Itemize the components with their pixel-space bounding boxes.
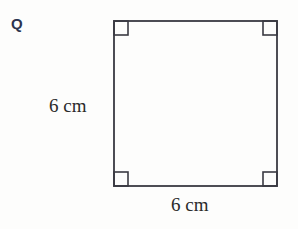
right-angle-marker-bottom-left (114, 172, 128, 186)
side-length-label-bottom: 6 cm (171, 195, 208, 215)
right-angle-marker-bottom-right (263, 172, 277, 186)
right-angle-marker-top-right (263, 21, 277, 35)
right-angle-marker-top-left (114, 21, 128, 35)
side-length-label-left: 6 cm (49, 96, 86, 116)
square-shape-svg (0, 0, 298, 229)
geometry-figure: Q 6 cm 6 cm (0, 0, 298, 229)
square-outline (114, 21, 277, 186)
